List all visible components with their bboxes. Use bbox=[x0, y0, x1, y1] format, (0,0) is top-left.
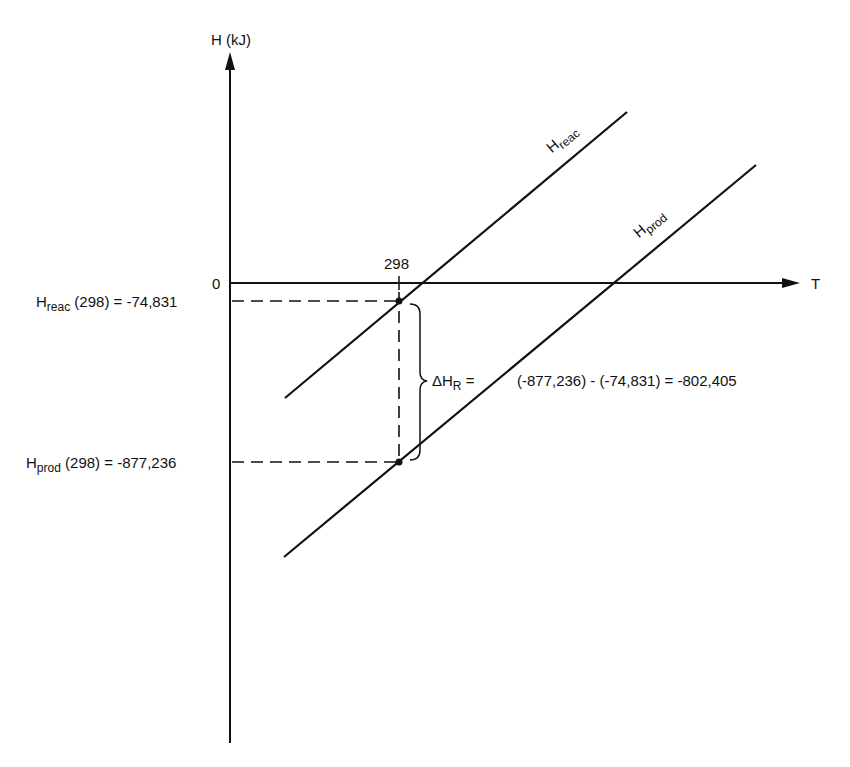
h-reac-line bbox=[285, 112, 627, 398]
y-axis-label: H (kJ) bbox=[211, 32, 251, 47]
delta-h-label: ΔHR = bbox=[432, 373, 474, 388]
prod-value-label: Hprod (298) = -877,236 bbox=[26, 455, 176, 470]
x-axis-arrow-icon bbox=[782, 278, 800, 288]
reac-value-label: Hreac (298) = -74,831 bbox=[36, 294, 177, 309]
origin-label: 0 bbox=[212, 276, 220, 291]
y-axis-arrow-icon bbox=[225, 52, 235, 70]
reac-point bbox=[396, 298, 403, 305]
h-prod-line bbox=[284, 165, 756, 557]
prod-point bbox=[396, 459, 403, 466]
delta-h-expression: (-877,236) - (-74,831) = -802,405 bbox=[517, 373, 737, 388]
x-axis-label: T bbox=[811, 276, 820, 291]
delta-brace-icon bbox=[410, 304, 427, 460]
x-tick-label-298: 298 bbox=[384, 256, 409, 271]
